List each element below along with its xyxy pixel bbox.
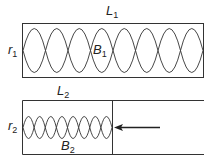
length-label-2: L2 <box>57 84 69 100</box>
standing-wave-1 <box>23 29 203 73</box>
wave-lobe <box>158 29 181 73</box>
length-label-1: L1 <box>106 4 118 20</box>
radius-label-2: r2 <box>8 119 17 135</box>
wave-lobe <box>56 117 67 139</box>
wave-lobe <box>23 29 46 73</box>
beam-label-2: B2 <box>61 139 75 155</box>
wave-lobe <box>101 117 112 139</box>
standing-wave-2 <box>23 117 112 139</box>
beam-label-1: B1 <box>93 43 107 59</box>
wave-lobe <box>113 29 136 73</box>
wave-lobe <box>23 117 34 139</box>
wave-lobe <box>181 29 204 73</box>
wave-lobe <box>136 29 159 73</box>
wave-lobe <box>46 29 69 73</box>
wave-lobe <box>45 117 56 139</box>
wave-lobe <box>68 117 79 139</box>
wave-lobe <box>79 117 90 139</box>
wave-lobe <box>68 29 91 73</box>
wave-lobe <box>90 117 101 139</box>
radius-label-1: r1 <box>8 43 17 59</box>
wave-lobe <box>34 117 45 139</box>
diagram-canvas <box>0 0 212 162</box>
